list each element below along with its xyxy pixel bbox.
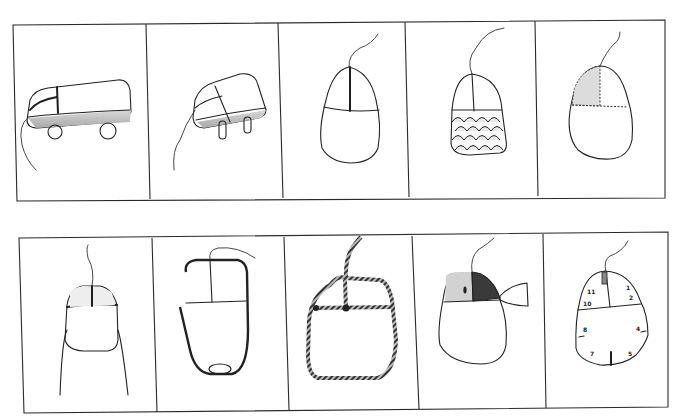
sketch-sheet: 11 10 1 2 8 4 7 5 [0, 0, 681, 419]
rope-knot-center [343, 305, 350, 312]
illustration-canvas: Creative computer mouse sketches [0, 0, 681, 419]
panel-clock-mouse: 11 10 1 2 8 4 7 5 [576, 241, 648, 365]
svg-text:11: 11 [587, 288, 595, 295]
svg-text:8: 8 [583, 326, 587, 333]
panel-outline-mouse [180, 248, 255, 374]
svg-text:10: 10 [583, 300, 591, 307]
panel-scale-mouse [451, 28, 506, 155]
panel-stitched-mouse [569, 32, 632, 159]
panel-fingertip-mouse [60, 245, 128, 395]
rope-knot-left [313, 305, 319, 311]
panel-classic-mouse [321, 34, 380, 163]
svg-text:1: 1 [626, 284, 630, 291]
fish-tail [500, 283, 528, 306]
svg-text:4: 4 [636, 325, 640, 332]
row-2-frames [19, 232, 668, 413]
clock-numerals: 11 10 1 2 8 4 7 5 [583, 284, 640, 357]
scale-pattern [452, 118, 503, 151]
fish-eye-icon [463, 287, 466, 294]
svg-text:5: 5 [628, 350, 632, 357]
panel-rope-mouse [308, 237, 396, 378]
panel-plug-mouse [174, 74, 266, 170]
panel-van-mouse [21, 80, 131, 170]
svg-text:2: 2 [629, 294, 633, 301]
svg-text:7: 7 [590, 350, 594, 357]
panel-fish-mouse [439, 238, 528, 364]
